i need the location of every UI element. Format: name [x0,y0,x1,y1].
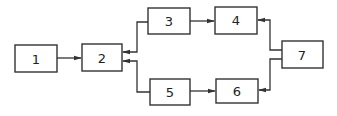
block-5-label: 5 [166,85,174,100]
block-2: 2 [82,44,122,71]
connector-7-to-4 [258,20,282,50]
block-diagram: 1 2 3 4 5 6 7 [0,0,337,116]
block-7: 7 [282,41,323,68]
block-7-label: 7 [298,48,306,63]
block-3-label: 3 [165,14,173,29]
connector-7-to-6 [259,59,282,90]
block-5: 5 [150,79,190,105]
block-3: 3 [148,8,190,34]
block-6: 6 [216,79,258,103]
block-4: 4 [215,7,257,34]
block-6-label: 6 [233,84,241,99]
block-1: 1 [15,45,57,72]
block-2-label: 2 [98,51,106,66]
connector-5-to-2 [123,61,150,92]
block-4-label: 4 [232,13,240,28]
block-1-label: 1 [32,52,40,67]
connector-3-to-2 [123,22,148,52]
